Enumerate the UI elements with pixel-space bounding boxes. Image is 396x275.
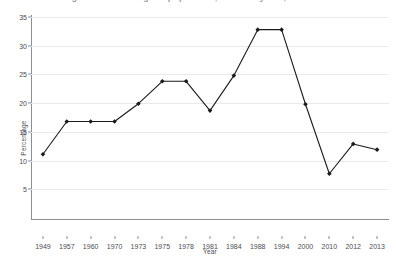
x-axis-tick-mark [353, 236, 354, 239]
y-axis-tick-mark [28, 131, 31, 132]
y-axis-tick-mark [28, 160, 31, 161]
x-axis-tick-label: 1973 [131, 243, 147, 250]
x-axis-tick-mark [329, 236, 330, 239]
y-axis-tick-mark [28, 189, 31, 190]
y-axis-tick-label: 5 [23, 186, 27, 193]
x-axis-tick-mark [257, 236, 258, 239]
plot-area: 5101520253035194919571960197019731975197… [31, 17, 389, 218]
x-axis-tick-label: 2013 [369, 243, 385, 250]
y-axis-tick-label: 25 [19, 71, 27, 78]
x-axis-tick-label: 2000 [298, 243, 314, 250]
y-axis-tick-mark [28, 74, 31, 75]
gridline [31, 103, 389, 104]
x-axis-tick-label: 2010 [322, 243, 338, 250]
x-axis-tick-mark [66, 236, 67, 239]
y-axis-tick-mark [28, 45, 31, 46]
x-axis-tick-label: 1981 [202, 243, 218, 250]
x-axis-tick-mark [90, 236, 91, 239]
x-axis-tick-label: 1994 [274, 243, 290, 250]
y-axis-tick-label: 30 [19, 42, 27, 49]
x-axis-tick-mark [281, 236, 282, 239]
x-axis-tick-label: 1975 [154, 243, 170, 250]
x-axis-tick-label: 1978 [178, 243, 194, 250]
x-axis-tick-label: 1949 [35, 243, 51, 250]
y-axis-tick-label: 35 [19, 14, 27, 21]
x-axis-tick-mark [162, 236, 163, 239]
chart-title: Figure 1. Percentage of population, sele… [0, 0, 396, 3]
y-axis-tick-label: 15 [19, 128, 27, 135]
x-axis-tick-label: 1960 [83, 243, 99, 250]
x-axis-tick-mark [210, 236, 211, 239]
x-axis-tick-mark [233, 236, 234, 239]
y-axis-tick-mark [28, 103, 31, 104]
y-axis-title: Percentage [20, 120, 27, 155]
x-axis-tick-mark [114, 236, 115, 239]
x-axis-tick-label: 1957 [59, 243, 75, 250]
x-axis-tick-mark [42, 236, 43, 239]
gridline [31, 46, 389, 47]
gridline [31, 17, 389, 18]
x-axis-tick-mark [138, 236, 139, 239]
x-axis-tick-label: 1988 [250, 243, 266, 250]
gridline [31, 132, 389, 133]
gridline [31, 161, 389, 162]
x-axis-tick-label: 1984 [226, 243, 242, 250]
x-axis-tick-label: 1970 [107, 243, 123, 250]
y-axis-tick-label: 20 [19, 100, 27, 107]
gridline [31, 74, 389, 75]
y-axis-tick-label: 10 [19, 157, 27, 164]
x-axis-line [31, 219, 389, 220]
line-chart: Figure 1. Percentage of population, sele… [0, 0, 396, 275]
x-axis-tick-mark [186, 236, 187, 239]
x-axis-tick-mark [377, 236, 378, 239]
y-axis-tick-mark [28, 17, 31, 18]
x-axis-tick-mark [305, 236, 306, 239]
x-axis-tick-label: 2012 [345, 243, 361, 250]
gridline [31, 189, 389, 190]
